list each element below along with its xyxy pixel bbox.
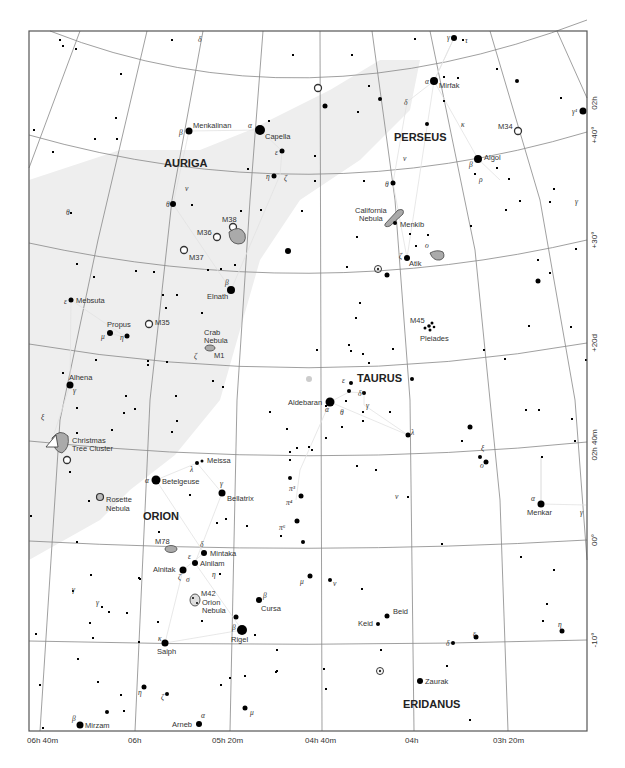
svg-text:δ: δ: [198, 35, 202, 44]
orion-nebula-icon: [190, 594, 200, 606]
right-axis: 02h +40° +30° +20d 02h 40m 00° -10°: [590, 96, 599, 647]
svg-text:μ: μ: [250, 708, 254, 717]
label-keid: Keid: [358, 619, 373, 628]
svg-text:β: β: [231, 623, 236, 632]
constellation-orion: ORION: [143, 510, 179, 522]
ra-label-0640: 06h 40m: [27, 736, 58, 745]
svg-text:γ: γ: [96, 598, 100, 607]
axis-label-02h: 02h: [590, 96, 599, 109]
label-alnitak: Alnitak: [153, 565, 176, 574]
svg-text:ν: ν: [395, 492, 399, 501]
svg-text:η: η: [212, 570, 216, 579]
svg-text:γ¹: γ¹: [572, 107, 578, 116]
svg-text:ν: ν: [333, 579, 337, 588]
svg-text:ε: ε: [188, 552, 191, 561]
svg-text:π⁴: π⁴: [286, 498, 293, 507]
svg-text:α: α: [145, 476, 150, 485]
svg-text:β: β: [71, 714, 76, 723]
svg-text:γ: γ: [72, 585, 76, 594]
dec-label-p40: +40°: [590, 127, 599, 144]
m78-nebula-icon: [165, 546, 177, 553]
svg-text:σ: σ: [186, 575, 190, 584]
svg-text:ρ: ρ: [478, 175, 483, 184]
svg-text:γ: γ: [447, 33, 451, 42]
ra-label-04: 04h: [405, 736, 418, 745]
dec-label-p20: +20d: [590, 334, 599, 352]
label-meissa: Meissa: [207, 456, 232, 465]
label-m78: M78: [155, 537, 170, 546]
svg-text:ε: ε: [342, 376, 345, 385]
svg-text:η: η: [138, 688, 142, 697]
svg-text:θ: θ: [340, 408, 344, 417]
label-rigel: Rigel: [231, 635, 248, 644]
ra-label-0520: 05h 20m: [212, 736, 243, 745]
label-m35: M35: [155, 318, 170, 327]
svg-text:ε: ε: [473, 629, 476, 638]
dec-label-00: 00°: [590, 534, 599, 546]
galaxy-core-icon: [379, 670, 381, 672]
svg-text:η: η: [558, 620, 562, 629]
svg-text:δ: δ: [200, 540, 204, 549]
label-california-2: Nebula: [359, 214, 384, 223]
label-mirzam: Mirzam: [85, 721, 110, 730]
label-m34: M34: [498, 122, 513, 131]
label-crab-2: Nebula: [204, 336, 229, 345]
constellation-perseus: PERSEUS: [394, 131, 447, 143]
svg-text:ν: ν: [403, 154, 407, 163]
label-m42: M42: [201, 589, 216, 598]
dec-label-p30: +30°: [590, 232, 599, 249]
label-algol: Algol: [484, 153, 501, 162]
ra-label-06: 06h: [128, 736, 141, 745]
svg-text:κ: κ: [158, 634, 162, 643]
svg-text:ξ: ξ: [481, 444, 485, 453]
label-menkib: Menkib: [400, 220, 424, 229]
cluster-icon: [315, 85, 322, 92]
label-mebsuta: Mebsuta: [76, 296, 106, 305]
svg-text:η: η: [266, 172, 270, 181]
label-elnath: Elnath: [207, 292, 228, 301]
constellation-auriga: AURIGA: [164, 157, 207, 169]
label-m37: M37: [189, 253, 204, 262]
svg-text:ο: ο: [425, 241, 429, 250]
svg-text:α: α: [248, 121, 253, 130]
ra-label-0440: 04h 40m: [305, 736, 336, 745]
svg-text:ζ: ζ: [399, 252, 403, 261]
svg-text:ε: ε: [275, 148, 278, 157]
svg-text:π³: π³: [289, 484, 296, 493]
nebula-icon: [430, 251, 444, 260]
label-m38: M38: [222, 215, 237, 224]
milky-way-band: [29, 60, 420, 560]
dec-label-m10: -10°: [590, 633, 599, 648]
label-aldebaran: Aldebaran: [288, 398, 322, 407]
star-chart: δ β α ε η ζ ν θ θ γ τ α δ κ ν β ρ θ γ¹ ζ…: [0, 0, 625, 768]
label-m36: M36: [197, 228, 212, 237]
svg-text:τ: τ: [465, 36, 468, 45]
label-betelgeuse: Betelgeuse: [162, 477, 200, 486]
m34-cluster-icon: [515, 128, 522, 135]
svg-text:ο: ο: [480, 461, 484, 470]
svg-text:λ: λ: [410, 428, 415, 437]
m35-cluster-icon: [146, 321, 153, 328]
svg-text:ζ: ζ: [161, 693, 165, 702]
constellation-taurus: TAURUS: [357, 372, 402, 384]
label-alhena: Alhena: [69, 373, 93, 382]
axis-label-0240: 02h 40m: [590, 429, 599, 460]
label-pleiades: Pleiades: [420, 334, 449, 343]
label-propus: Propus: [107, 320, 131, 329]
svg-text:β: β: [468, 160, 473, 169]
svg-text:β: β: [224, 278, 229, 287]
label-alnilam: Alnilam: [200, 559, 225, 568]
ra-label-0320: 03h 20m: [493, 736, 524, 745]
label-mirfak: Mirfak: [439, 81, 460, 90]
label-mintaka: Mintaka: [210, 549, 237, 558]
label-rosette-1: Rosette: [106, 495, 132, 504]
label-saiph: Saiph: [157, 647, 176, 656]
svg-text:ε: ε: [64, 297, 67, 306]
svg-text:γ: γ: [575, 197, 579, 206]
svg-text:θ: θ: [66, 208, 70, 217]
label-orion-neb-2: Nebula: [202, 606, 227, 615]
svg-text:δ¹: δ¹: [358, 389, 364, 398]
svg-text:κ: κ: [461, 120, 465, 129]
svg-text:α: α: [201, 711, 206, 720]
label-xmas-2: Tree Cluster: [72, 444, 113, 453]
